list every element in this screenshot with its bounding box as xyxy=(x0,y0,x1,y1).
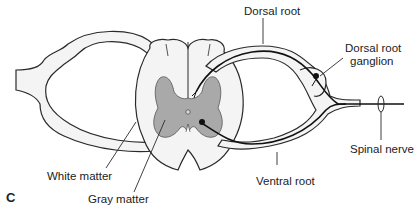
label-dorsal-root-ganglion-line1: Dorsal root xyxy=(345,42,401,55)
panel-letter: C xyxy=(6,191,15,204)
motor-neuron-cell-body xyxy=(199,119,205,125)
label-dorsal-root-ganglion-line2: ganglion xyxy=(350,55,393,68)
label-white-matter: White matter xyxy=(47,170,112,183)
label-ventral-root: Ventral root xyxy=(256,175,315,188)
label-spinal-nerve: Spinal nerve xyxy=(350,143,414,156)
label-gray-matter: Gray matter xyxy=(88,193,149,206)
spinal-cord-diagram: Dorsal root Dorsal root ganglion Spinal … xyxy=(0,0,417,212)
label-dorsal-root: Dorsal root xyxy=(244,5,300,18)
ganglion-cell-body xyxy=(313,73,319,79)
